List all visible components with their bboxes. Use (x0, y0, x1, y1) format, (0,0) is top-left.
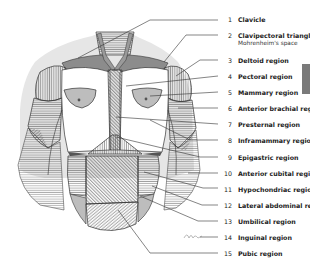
label-clavipectoral-triangle: 2Clavipectoral triangle (222, 32, 310, 39)
label-presternal-region: 7Presternal region (222, 121, 300, 128)
label-deltoid-region: 3Deltoid region (222, 57, 289, 64)
label-hypochondriac-region: 11Hypochondriac region (222, 186, 310, 193)
label-pubic-region: 15Pubic region (222, 250, 283, 257)
label-umbilical-region: 13Umbilical region (222, 218, 296, 225)
chapter-thumb-tab (302, 64, 310, 94)
label-inframammary-region: 8Inframammary region (222, 137, 310, 144)
label-anterior-brachial-region: 6Anterior brachial region (222, 105, 310, 112)
label-anterior-cubital-region: 10Anterior cubital region (222, 170, 310, 177)
label-inguinal-region: 14Inguinal region (222, 234, 292, 241)
label-mohrenheims-space: Mohrenheim's space (238, 40, 298, 47)
label-clavicle: 1Clavicle (222, 16, 265, 23)
label-pectoral-region: 4Pectoral region (222, 73, 293, 80)
label-lateral-abdominal-region: 12Lateral abdominal region (222, 202, 310, 209)
artist-signature (184, 235, 202, 238)
label-epigastric-region: 9Epigastric region (222, 154, 299, 161)
label-mammary-region: 5Mammary region (222, 89, 298, 96)
